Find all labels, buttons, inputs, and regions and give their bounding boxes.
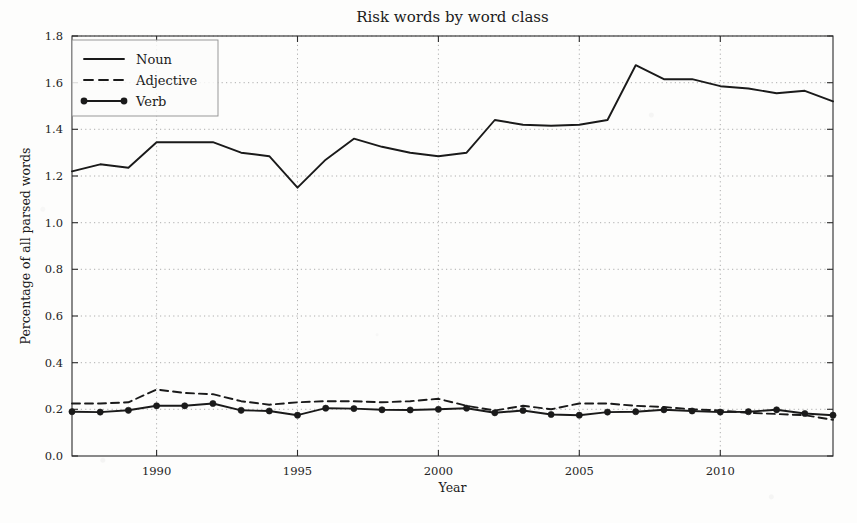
series-marker-verb	[323, 405, 329, 411]
y-tick-label: 0.6	[45, 309, 63, 323]
series-marker-verb	[689, 408, 695, 414]
x-tick-label: 2010	[706, 464, 735, 478]
x-tick-label: 2000	[424, 464, 453, 478]
series-marker-verb	[125, 407, 131, 413]
line-chart: 0.00.20.40.60.81.01.21.41.61.81990199520…	[0, 0, 857, 523]
y-tick-label: 1.0	[45, 216, 63, 230]
series-marker-verb	[210, 400, 216, 406]
series-marker-verb	[97, 409, 103, 415]
series-marker-verb	[69, 409, 75, 415]
series-marker-verb	[294, 412, 300, 418]
series-marker-verb	[464, 405, 470, 411]
series-marker-verb	[435, 406, 441, 412]
legend-label-adjective: Adjective	[135, 73, 197, 88]
series-marker-verb	[774, 407, 780, 413]
legend-marker-end	[121, 98, 128, 105]
series-marker-verb	[604, 409, 610, 415]
series-marker-verb	[802, 410, 808, 416]
series-marker-verb	[154, 403, 160, 409]
x-axis-label: Year	[438, 480, 467, 495]
series-marker-verb	[830, 412, 836, 418]
legend-label-noun: Noun	[136, 52, 173, 67]
y-axis-label: Percentage of all parsed words	[18, 148, 33, 345]
series-marker-verb	[492, 410, 498, 416]
series-marker-verb	[351, 406, 357, 412]
y-tick-label: 1.8	[45, 29, 63, 43]
x-tick-label: 1995	[283, 464, 312, 478]
series-marker-verb	[520, 407, 526, 413]
series-marker-verb	[576, 412, 582, 418]
series-marker-verb	[407, 407, 413, 413]
series-marker-verb	[745, 409, 751, 415]
chart-title: Risk words by word class	[356, 8, 549, 26]
y-tick-label: 1.4	[45, 122, 63, 136]
y-tick-label: 0.4	[45, 356, 63, 370]
series-marker-verb	[633, 409, 639, 415]
y-tick-label: 1.6	[45, 76, 63, 90]
chart-page: 0.00.20.40.60.81.01.21.41.61.81990199520…	[0, 0, 857, 523]
series-marker-verb	[548, 411, 554, 417]
x-tick-label: 2005	[565, 464, 594, 478]
legend-label-verb: Verb	[135, 94, 166, 109]
y-tick-label: 0.8	[45, 262, 63, 276]
series-marker-verb	[238, 407, 244, 413]
series-marker-verb	[717, 409, 723, 415]
y-tick-label: 0.2	[45, 402, 63, 416]
legend-marker-start	[81, 98, 88, 105]
y-tick-label: 1.2	[45, 169, 63, 183]
x-tick-label: 1990	[142, 464, 171, 478]
series-marker-verb	[182, 403, 188, 409]
series-marker-verb	[379, 407, 385, 413]
series-marker-verb	[661, 407, 667, 413]
series-marker-verb	[266, 408, 272, 414]
y-tick-label: 0.0	[45, 449, 63, 463]
